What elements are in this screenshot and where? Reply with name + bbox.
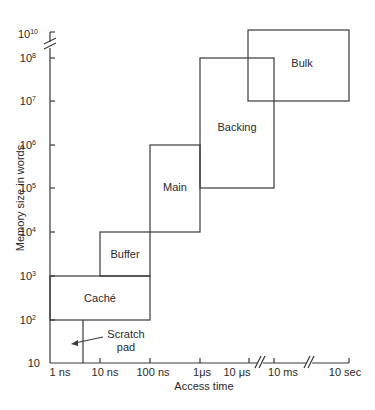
xtick-10us: 10 μs [223, 366, 251, 378]
label-bulk: Bulk [291, 57, 313, 69]
xtick-10ms: 10 ms [268, 366, 298, 378]
xtick-1us: 1μs [193, 366, 211, 378]
label-cache: Caché [84, 292, 116, 304]
ytick-1e2: 102 [20, 314, 36, 326]
label-pad: pad [117, 341, 135, 353]
ytick-1e8: 108 [20, 52, 36, 64]
ytick-1e10: 1010 [18, 28, 38, 40]
x-axis-label: Access time [174, 380, 233, 392]
xtick-10ns: 10 ns [92, 366, 119, 378]
ytick-10: 10 [28, 357, 40, 369]
arrow-head-icon [71, 340, 78, 346]
xtick-1ns: 1 ns [50, 366, 71, 378]
xtick-10sec: 10 sec [329, 366, 362, 378]
label-scratch: Scratch [107, 328, 144, 340]
ytick-1e7: 107 [20, 95, 36, 107]
label-buffer: Buffer [110, 248, 139, 260]
memory-hierarchy-diagram: Caché Buffer Main Backing Bulk Scratch p… [0, 0, 375, 410]
y-axis-label: Memory size in words [14, 144, 26, 251]
scratch-pad-arrow [75, 337, 103, 343]
ytick-1e3: 103 [20, 270, 36, 282]
xtick-100ns: 100 ns [136, 366, 170, 378]
label-backing: Backing [217, 121, 256, 133]
label-main: Main [163, 181, 187, 193]
